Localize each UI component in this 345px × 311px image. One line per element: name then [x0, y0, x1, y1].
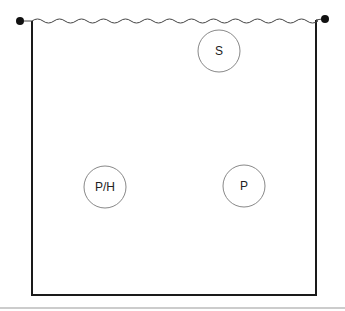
wavy-top-edge — [24, 19, 322, 23]
node-s-label: S — [215, 44, 223, 58]
node-p: P — [223, 165, 265, 207]
node-ph-label: P/H — [95, 180, 115, 194]
diagram-canvas: S P/H P — [0, 0, 345, 311]
node-s: S — [198, 30, 240, 72]
right-endpoint-dot — [321, 15, 329, 23]
left-endpoint-dot — [16, 17, 24, 25]
enclosure-box — [32, 20, 316, 295]
node-ph: P/H — [84, 166, 126, 208]
node-p-label: P — [240, 179, 248, 193]
